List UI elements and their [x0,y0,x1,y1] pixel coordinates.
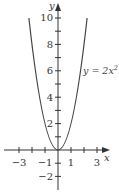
x-tick-label-neg1: −1 [38,157,53,168]
x-axis-label: x [104,152,110,163]
y-tick-label-8: 8 [47,39,53,50]
equation-label: y = 2x2 [82,64,118,76]
equation-exponent: 2 [113,64,118,72]
y-tick-label-neg2: −2 [38,171,53,182]
y-axis-label: y [48,0,55,11]
y-tick-label-10: 10 [40,12,53,23]
y-axis [55,3,61,190]
y-tick-label-6: 6 [47,65,53,76]
y-tick-label-2: 2 [47,118,53,129]
y-axis-arrow-icon [55,3,61,11]
x-tick-label-1: 1 [68,157,74,168]
x-tick-label-3: 3 [94,157,100,168]
x-tick-label-neg3: −3 [12,157,27,168]
y-tick-label-4: 4 [47,92,53,103]
equation-main: y = 2x [82,65,114,76]
parabola-chart: −3 −1 1 3 −2 2 4 6 8 10 x y y = 2x2 [0,0,119,195]
